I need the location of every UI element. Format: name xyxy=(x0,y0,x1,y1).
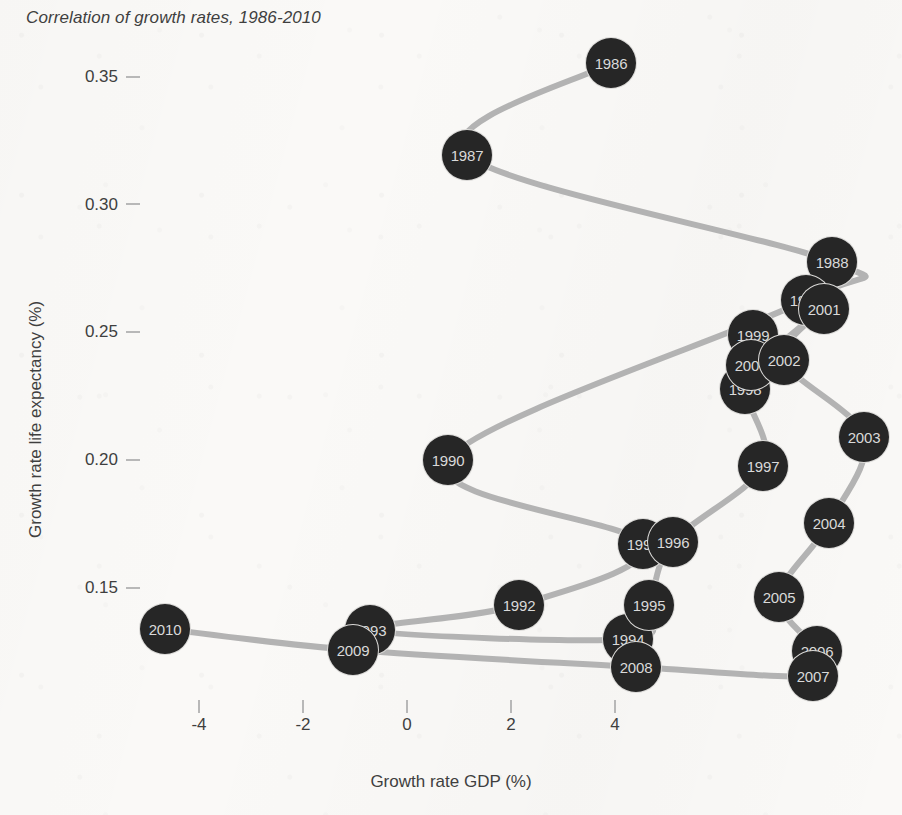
x-tick-label-2: 2 xyxy=(481,715,541,735)
data-point-2001[interactable]: 2001 xyxy=(798,283,850,335)
data-point-1992[interactable]: 1992 xyxy=(493,579,545,631)
data-point-1995[interactable]: 1995 xyxy=(623,579,675,631)
y-tick-label-0.30: 0.30 xyxy=(44,195,118,215)
y-tick-label-0.20: 0.20 xyxy=(44,450,118,470)
x-tick-label--2: -2 xyxy=(273,715,333,735)
y-tick-label-0.35: 0.35 xyxy=(44,67,118,87)
chart-page: Correlation of growth rates, 1986-2010 0… xyxy=(0,0,902,815)
data-point-label: 1997 xyxy=(747,458,780,475)
data-point-2003[interactable]: 2003 xyxy=(838,411,890,463)
x-axis-title: Growth rate GDP (%) xyxy=(0,772,902,792)
x-tick-label-0: 0 xyxy=(377,715,437,735)
data-point-label: 1995 xyxy=(633,597,666,614)
data-point-label: 2009 xyxy=(337,642,370,659)
data-point-2005[interactable]: 2005 xyxy=(753,571,805,623)
data-point-2007[interactable]: 2007 xyxy=(787,650,839,702)
x-tick-label-4: 4 xyxy=(585,715,645,735)
data-point-label: 1988 xyxy=(816,254,849,271)
data-point-label: 2001 xyxy=(808,301,841,318)
data-point-1997[interactable]: 1997 xyxy=(737,440,789,492)
plot-area xyxy=(0,0,902,815)
data-point-2008[interactable]: 2008 xyxy=(610,641,662,693)
data-point-1986[interactable]: 1986 xyxy=(585,37,637,89)
data-point-1987[interactable]: 1987 xyxy=(441,129,493,181)
data-point-label: 2002 xyxy=(768,352,801,369)
x-tick-label--4: -4 xyxy=(169,715,229,735)
data-point-2010[interactable]: 2010 xyxy=(139,603,191,655)
data-point-label: 2005 xyxy=(763,589,796,606)
data-point-2002[interactable]: 2002 xyxy=(758,334,810,386)
y-tick-label-0.25: 0.25 xyxy=(44,322,118,342)
data-point-label: 1992 xyxy=(503,597,536,614)
data-point-label: 1990 xyxy=(432,452,465,469)
data-point-label: 2010 xyxy=(149,621,182,638)
data-point-label: 1996 xyxy=(657,534,690,551)
data-point-label: 2004 xyxy=(813,515,846,532)
data-point-label: 2008 xyxy=(620,659,653,676)
data-point-2009[interactable]: 2009 xyxy=(327,624,379,676)
data-point-label: 1987 xyxy=(451,147,484,164)
data-point-2004[interactable]: 2004 xyxy=(803,497,855,549)
data-point-1990[interactable]: 1990 xyxy=(422,434,474,486)
y-axis-title: Growth rate life expectancy (%) xyxy=(26,301,46,538)
data-point-label: 1986 xyxy=(595,55,628,72)
data-point-label: 2007 xyxy=(797,668,830,685)
data-point-1996[interactable]: 1996 xyxy=(647,516,699,568)
y-tick-label-0.15: 0.15 xyxy=(44,578,118,598)
data-point-label: 2003 xyxy=(848,429,881,446)
